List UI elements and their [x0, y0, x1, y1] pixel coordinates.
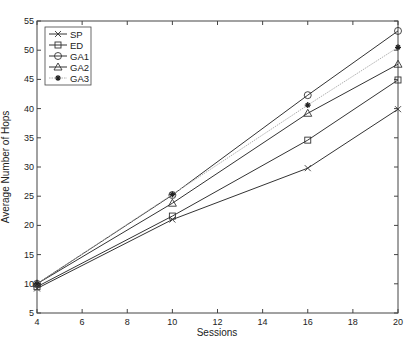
x-tick-label: 20 — [393, 317, 403, 327]
y-tick-label: 10 — [24, 279, 34, 289]
series-line — [37, 80, 398, 287]
legend-label: GA2 — [70, 62, 89, 73]
y-tick-label: 55 — [24, 16, 34, 26]
asterisk-marker-icon — [395, 44, 401, 50]
y-tick-label: 40 — [24, 104, 34, 114]
legend-label: ED — [70, 40, 83, 51]
x-axis-label: Sessions — [197, 327, 238, 338]
x-marker-icon — [305, 165, 311, 171]
y-axis-label: Average Number of Hops — [0, 111, 11, 224]
legend-label: GA1 — [70, 51, 89, 62]
x-tick-label: 4 — [34, 317, 39, 327]
y-tick-label: 30 — [24, 162, 34, 172]
y-tick-label: 25 — [24, 191, 34, 201]
series-ga2 — [33, 60, 402, 287]
x-tick-label: 16 — [303, 317, 313, 327]
y-tick-label: 15 — [24, 250, 34, 260]
legend-label: GA3 — [70, 73, 89, 84]
line-chart: 468101214161820510152025303540455055 SPE… — [0, 0, 414, 348]
x-tick-label: 12 — [212, 317, 222, 327]
x-tick-label: 18 — [348, 317, 358, 327]
legend-label: SP — [70, 29, 83, 40]
y-tick-label: 50 — [24, 45, 34, 55]
legend: SPEDGA1GA2GA3 — [45, 27, 91, 85]
x-tick-label: 14 — [258, 317, 268, 327]
series-line — [37, 109, 398, 288]
series-sp — [34, 106, 401, 291]
x-tick-label: 6 — [80, 317, 85, 327]
y-tick-label: 20 — [24, 220, 34, 230]
y-tick-label: 5 — [29, 308, 34, 318]
series-line — [37, 64, 398, 284]
y-tick-label: 35 — [24, 133, 34, 143]
asterisk-marker-icon — [305, 102, 311, 108]
y-tick-label: 45 — [24, 74, 34, 84]
x-tick-label: 10 — [167, 317, 177, 327]
series-ed — [34, 77, 401, 290]
x-tick-label: 8 — [125, 317, 130, 327]
